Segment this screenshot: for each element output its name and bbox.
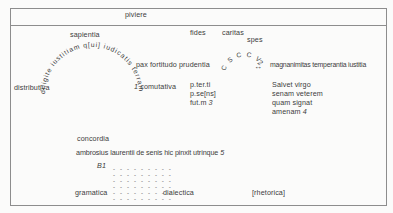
painter-signature: ambrosius laurentii de senis hic pinxit … bbox=[76, 149, 224, 157]
label-rhetorica: [rhetorica] bbox=[252, 189, 285, 197]
salvet-line-3: quam signat bbox=[272, 99, 312, 107]
label-gramatica: gramatica bbox=[75, 189, 107, 197]
label-comutativa: 1 comutativa bbox=[134, 83, 176, 91]
salvet-line-2: senam veterem bbox=[272, 90, 323, 98]
salvet-line-4: amenam 4 bbox=[272, 108, 307, 116]
amenam-word: amenam bbox=[272, 107, 301, 116]
label-dialectica: dialectica bbox=[163, 189, 194, 197]
futurum-word: fut.m bbox=[190, 98, 206, 107]
comutativa-word: comutativa bbox=[140, 82, 176, 91]
label-distributiva: distributiva bbox=[14, 84, 50, 92]
b1-label: B1 bbox=[97, 162, 106, 170]
titulus-preteriti: p.ter.ti bbox=[190, 81, 210, 89]
comutativa-footnote: 1 bbox=[134, 82, 138, 91]
signature-footnote: 5 bbox=[220, 148, 224, 157]
signature-text: ambrosius laurentii de senis hic pinxit … bbox=[76, 148, 218, 157]
fresco-inscription-diagram: piviere sapientia fides caritas spes dil… bbox=[0, 0, 393, 213]
salvet-line-1: Salvet virgo bbox=[272, 81, 311, 89]
titulus-futurum: fut.m 3 bbox=[190, 99, 213, 107]
arch-inscription-text: diligite iustitiam q[ui] iudicatis terra… bbox=[39, 41, 145, 94]
label-concordia: concordia bbox=[77, 135, 109, 143]
titulus-presens: p.se[ns] bbox=[190, 90, 216, 98]
label-virtues-left: pax fortitudo prudentia bbox=[136, 61, 210, 69]
salvet-footnote: 4 bbox=[303, 107, 307, 116]
tituli-footnote: 3 bbox=[209, 98, 213, 107]
double-arrow-symbol: ↔ bbox=[254, 63, 262, 72]
label-virtues-right: magnanimitas temperantia iustitia bbox=[270, 61, 366, 69]
